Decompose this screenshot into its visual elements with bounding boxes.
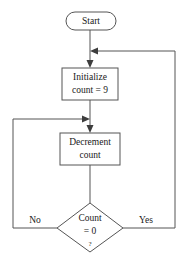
connector-initialize-to-decrement [87, 100, 94, 133]
decision-label-line2: = 0 [84, 226, 97, 236]
node-start[interactable]: Start [66, 12, 116, 30]
start-label: Start [82, 16, 100, 26]
decision-label-line3: ? [88, 240, 91, 248]
initialize-label-line2: count = 9 [72, 85, 108, 95]
node-initialize[interactable]: Initialize count = 9 [62, 68, 118, 100]
flowchart-canvas: Start Initialize count = 9 Decrement cou… [0, 0, 181, 263]
initialize-label-line1: Initialize [73, 72, 107, 82]
branch-label-yes: Yes [139, 215, 153, 225]
decrement-label-line1: Decrement [69, 137, 111, 147]
connector-start-to-initialize [87, 30, 94, 68]
node-decrement[interactable]: Decrement count [60, 133, 120, 165]
decrement-label-line2: count [79, 150, 100, 160]
decision-label-line1: Count [78, 213, 102, 223]
node-decision[interactable]: Count = 0 ? [57, 203, 123, 252]
branch-label-no: No [29, 215, 41, 225]
